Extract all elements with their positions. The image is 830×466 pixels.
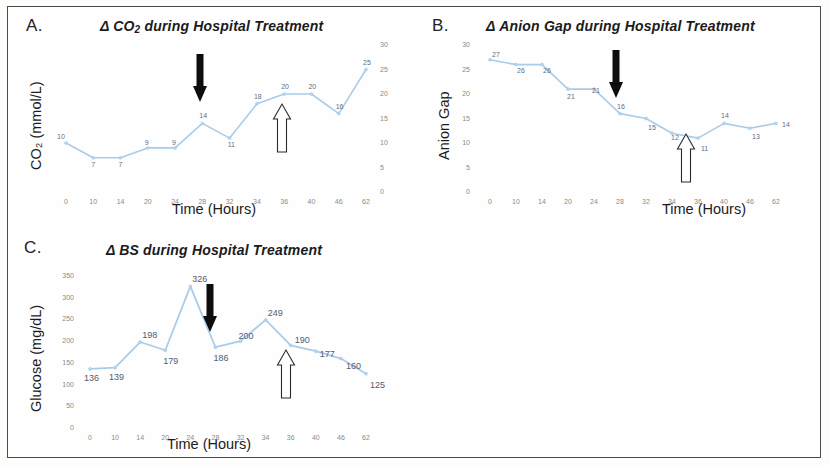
y-tick-5: 5: [380, 164, 384, 171]
x-tick-32: 32: [218, 198, 242, 205]
data-label-28: 14: [199, 112, 207, 119]
data-label-36: 20: [281, 83, 289, 90]
data-label-40: 20: [308, 83, 316, 90]
x-tick-34: 34: [660, 198, 684, 205]
x-tick-20: 20: [153, 434, 177, 441]
x-tick-20: 20: [556, 198, 580, 205]
data-label-0: 10: [57, 133, 65, 140]
y-tick-30: 30: [446, 41, 470, 48]
x-tick-10: 10: [103, 434, 127, 441]
data-label-62: 125: [370, 380, 385, 390]
y-tick-10: 10: [446, 139, 470, 146]
data-label-10: 139: [109, 372, 124, 382]
data-label-34: 249: [268, 308, 283, 318]
x-tick-24: 24: [178, 434, 202, 441]
data-label-46: 13: [752, 133, 760, 140]
x-tick-40: 40: [304, 434, 328, 441]
data-label-46: 16: [336, 103, 344, 110]
data-label-62: 25: [363, 59, 371, 66]
y-tick-200: 200: [50, 337, 74, 344]
x-tick-10: 10: [81, 198, 105, 205]
y-tick-20: 20: [380, 90, 388, 97]
x-tick-62: 62: [764, 198, 788, 205]
data-label-32: 15: [648, 124, 656, 131]
panel-b-plot: [424, 10, 820, 225]
y-tick-150: 150: [50, 359, 74, 366]
x-tick-0: 0: [478, 198, 502, 205]
panel-a-co2: A. Δ CO2 during Hospital Treatment CO₂ (…: [14, 10, 414, 225]
data-label-24: 326: [192, 274, 207, 284]
x-tick-28: 28: [203, 434, 227, 441]
y-tick-25: 25: [446, 66, 470, 73]
x-tick-28: 28: [190, 198, 214, 205]
y-tick-50: 50: [50, 402, 74, 409]
data-label-0: 136: [84, 373, 99, 383]
x-tick-20: 20: [136, 198, 160, 205]
data-label-10: 7: [91, 161, 95, 168]
data-label-40: 14: [721, 112, 729, 119]
x-tick-34: 34: [245, 198, 269, 205]
x-tick-36: 36: [279, 434, 303, 441]
data-label-32: 11: [228, 141, 235, 148]
x-tick-32: 32: [634, 198, 658, 205]
data-label-20: 21: [567, 93, 575, 100]
x-tick-14: 14: [530, 198, 554, 205]
x-tick-46: 46: [327, 198, 351, 205]
figure-page: A. Δ CO2 during Hospital Treatment CO₂ (…: [0, 0, 830, 466]
x-tick-34: 34: [254, 434, 278, 441]
x-tick-24: 24: [163, 198, 187, 205]
y-tick-0: 0: [50, 424, 74, 431]
data-label-24: 21: [592, 87, 600, 94]
data-label-24: 9: [172, 139, 176, 146]
y-tick-0: 0: [380, 188, 384, 195]
data-label-40: 177: [320, 349, 335, 359]
x-tick-62: 62: [354, 434, 378, 441]
x-tick-14: 14: [109, 198, 133, 205]
x-tick-40: 40: [299, 198, 323, 205]
data-label-34: 18: [254, 93, 262, 100]
data-label-20: 179: [163, 356, 178, 366]
y-tick-250: 250: [50, 315, 74, 322]
data-label-10: 26: [517, 67, 525, 74]
x-tick-46: 46: [738, 198, 762, 205]
data-label-14: 7: [119, 161, 123, 168]
x-tick-10: 10: [504, 198, 528, 205]
y-tick-15: 15: [380, 115, 388, 122]
y-tick-300: 300: [50, 294, 74, 301]
y-tick-15: 15: [446, 115, 470, 122]
y-tick-25: 25: [380, 66, 388, 73]
x-tick-36: 36: [686, 198, 710, 205]
panel-b-anion-gap: B. Δ Anion Gap during Hospital Treatment…: [424, 10, 820, 225]
x-tick-24: 24: [582, 198, 606, 205]
x-tick-32: 32: [229, 434, 253, 441]
data-label-36: 11: [701, 145, 708, 152]
panel-a-plot: [14, 10, 414, 225]
data-label-62: 14: [782, 121, 790, 128]
data-label-46: 160: [346, 361, 361, 371]
x-tick-62: 62: [354, 198, 378, 205]
x-tick-14: 14: [128, 434, 152, 441]
x-tick-28: 28: [608, 198, 632, 205]
data-label-14: 198: [142, 330, 157, 340]
y-tick-20: 20: [446, 90, 470, 97]
y-tick-100: 100: [50, 381, 74, 388]
data-label-34: 12: [671, 134, 679, 141]
y-tick-30: 30: [380, 41, 388, 48]
y-tick-10: 10: [380, 139, 388, 146]
data-label-20: 9: [145, 139, 149, 146]
data-label-32: 200: [239, 331, 254, 341]
panel-c-plot: [14, 232, 414, 460]
y-tick-0: 0: [446, 188, 470, 195]
x-tick-36: 36: [272, 198, 296, 205]
x-tick-0: 0: [78, 434, 102, 441]
data-label-14: 26: [543, 67, 551, 74]
y-tick-5: 5: [446, 164, 470, 171]
data-label-0: 27: [492, 51, 500, 58]
data-label-28: 186: [213, 353, 228, 363]
data-label-36: 190: [295, 335, 310, 345]
data-label-28: 16: [617, 103, 625, 110]
y-tick-350: 350: [50, 272, 74, 279]
x-tick-40: 40: [712, 198, 736, 205]
x-tick-46: 46: [329, 434, 353, 441]
panel-c-glucose: C. Δ BS during Hospital Treatment Glucos…: [14, 232, 414, 460]
